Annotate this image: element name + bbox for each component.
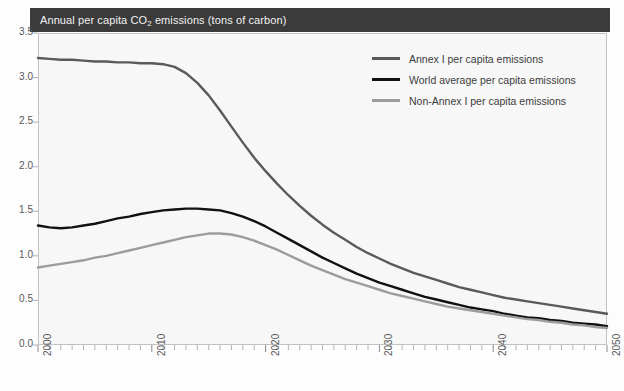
- x-axis-tick-label: 2010: [156, 334, 167, 356]
- legend-color-swatch: [372, 57, 400, 60]
- y-axis-ticks: [33, 33, 38, 345]
- legend-item: World average per capita emissions: [372, 69, 576, 90]
- legend-item-label: Annex I per capita emissions: [409, 53, 543, 65]
- legend-color-swatch: [372, 78, 400, 81]
- x-axis-tick-label: 2050: [611, 334, 622, 356]
- chart-figure: Annual per capita CO2 emissions (tons of…: [0, 0, 624, 391]
- x-axis-ticks: [38, 345, 607, 352]
- x-axis-tick-label: 2000: [42, 334, 53, 356]
- legend-color-swatch: [372, 99, 400, 102]
- legend-item: Annex I per capita emissions: [372, 48, 576, 69]
- legend-item-label: World average per capita emissions: [409, 74, 576, 86]
- chart-legend: Annex I per capita emissionsWorld averag…: [372, 48, 576, 111]
- x-axis-tick-label: 2030: [383, 334, 394, 356]
- legend-item: Non-Annex I per capita emissions: [372, 90, 576, 111]
- x-axis-tick-label: 2040: [497, 334, 508, 356]
- legend-item-label: Non-Annex I per capita emissions: [409, 95, 566, 107]
- x-axis-tick-label: 2020: [270, 334, 281, 356]
